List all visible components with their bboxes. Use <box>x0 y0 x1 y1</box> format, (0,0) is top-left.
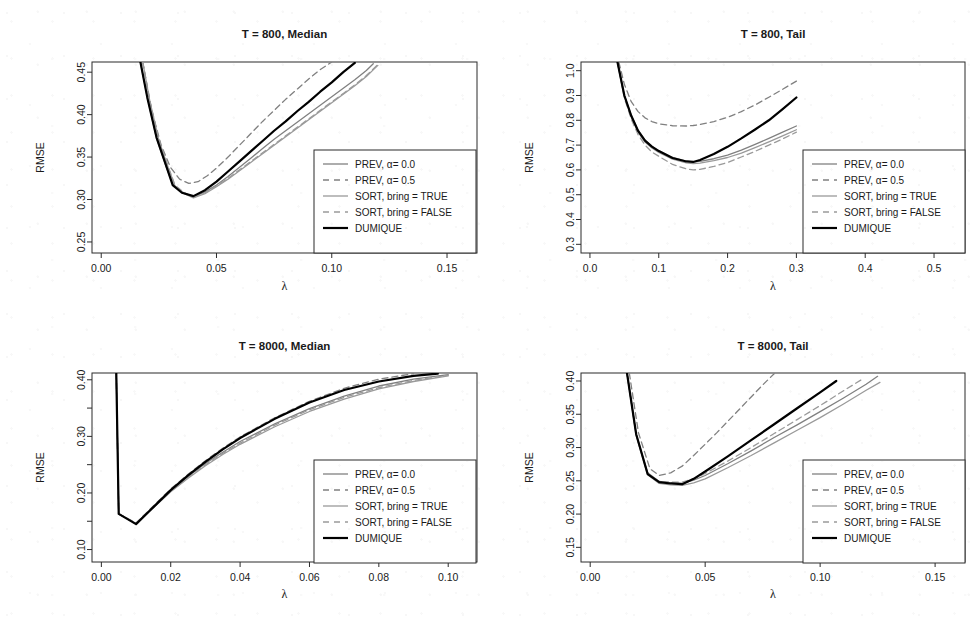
legend-label: PREV, α= 0.0 <box>355 469 416 480</box>
y-tick-label: 0.20 <box>564 504 576 525</box>
y-tick-label: 0.8 <box>564 113 576 128</box>
x-tick-label: 0.02 <box>161 571 182 583</box>
legend-label: PREV, α= 0.0 <box>844 469 905 480</box>
x-tick-label: 0.04 <box>230 571 251 583</box>
legend-label: PREV, α= 0.5 <box>355 485 416 496</box>
y-tick-label: 0.40 <box>564 371 576 392</box>
y-tick-label: 0.40 <box>75 104 87 125</box>
series-line <box>619 62 797 126</box>
legend-label: DUMIQUE <box>844 533 892 544</box>
legend-label: DUMIQUE <box>844 223 892 234</box>
legend-label: PREV, α= 0.0 <box>355 159 416 170</box>
legend-label: SORT, bring = FALSE <box>355 517 452 528</box>
x-tick-label: 0.00 <box>91 262 112 274</box>
legend-label: SORT, bring = FALSE <box>844 207 941 218</box>
legend-label: SORT, bring = TRUE <box>355 501 448 512</box>
figure-panel-grid: T = 800, Median0.250.300.350.400.450.000… <box>0 0 975 641</box>
legend: PREV, α= 0.0PREV, α= 0.5SORT, bring = TR… <box>314 460 476 563</box>
legend-label: PREV, α= 0.5 <box>355 175 416 186</box>
y-tick-label: 0.30 <box>75 189 87 210</box>
legend-label: SORT, bring = FALSE <box>355 207 452 218</box>
y-tick-label: 0.3 <box>564 237 576 252</box>
y-axis-label: RMSE <box>34 142 46 172</box>
y-axis-label: RMSE <box>523 452 535 482</box>
x-axis-label: λ <box>282 279 288 293</box>
panel-title: T = 8000, Median <box>239 340 331 352</box>
panel-bottom-right: T = 8000, Tail0.150.200.250.300.350.400.… <box>487 320 975 641</box>
x-tick-label: 0.4 <box>858 262 873 274</box>
y-tick-label: 0.20 <box>75 483 87 504</box>
x-tick-label: 0.15 <box>437 262 458 274</box>
legend: PREV, α= 0.0PREV, α= 0.5SORT, bring = TR… <box>803 150 965 253</box>
y-tick-label: 0.7 <box>564 138 576 153</box>
y-tick-label: 0.15 <box>564 537 576 558</box>
series-line <box>629 373 774 475</box>
y-tick-label: 1.0 <box>564 63 576 78</box>
x-tick-label: 0.2 <box>720 262 735 274</box>
y-tick-label: 0.35 <box>75 147 87 168</box>
x-tick-label: 0.0 <box>583 262 598 274</box>
x-tick-label: 0.10 <box>438 571 459 583</box>
x-tick-label: 0.5 <box>927 262 942 274</box>
y-tick-label: 0.4 <box>564 212 576 227</box>
series-line <box>617 62 796 170</box>
y-tick-label: 0.10 <box>75 539 87 560</box>
y-tick-label: 0.30 <box>75 426 87 447</box>
panel-title: T = 800, Tail <box>741 28 806 40</box>
x-tick-label: 0.3 <box>789 262 804 274</box>
y-tick-label: 0.9 <box>564 88 576 103</box>
series-line <box>617 62 796 164</box>
x-tick-label: 0.1 <box>651 262 666 274</box>
x-tick-label: 0.06 <box>299 571 320 583</box>
x-axis-label: λ <box>770 587 776 601</box>
x-tick-label: 0.00 <box>580 571 601 583</box>
x-tick-label: 0.08 <box>369 571 390 583</box>
legend-label: SORT, bring = TRUE <box>355 191 448 202</box>
y-axis-label: RMSE <box>523 142 535 172</box>
y-tick-label: 0.30 <box>564 437 576 458</box>
x-axis-label: λ <box>770 279 776 293</box>
legend: PREV, α= 0.0PREV, α= 0.5SORT, bring = TR… <box>803 460 965 563</box>
legend-label: PREV, α= 0.0 <box>844 159 905 170</box>
y-tick-label: 0.40 <box>75 369 87 390</box>
panel-title: T = 800, Median <box>242 28 327 40</box>
legend: PREV, α= 0.0PREV, α= 0.5SORT, bring = TR… <box>314 150 476 253</box>
series-layer <box>617 62 796 170</box>
series-line <box>617 62 796 162</box>
x-tick-label: 0.00 <box>91 571 112 583</box>
y-tick-label: 0.45 <box>75 62 87 83</box>
y-tick-label: 0.25 <box>564 470 576 491</box>
x-tick-label: 0.10 <box>322 262 343 274</box>
panel-top-left: T = 800, Median0.250.300.350.400.450.000… <box>0 0 487 320</box>
x-tick-label: 0.05 <box>206 262 227 274</box>
y-tick-label: 0.5 <box>564 187 576 202</box>
legend-label: SORT, bring = FALSE <box>844 517 941 528</box>
series-line <box>617 62 796 162</box>
panel-top-right: T = 800, Tail0.30.40.50.60.70.80.91.00.0… <box>487 0 975 320</box>
y-tick-label: 0.6 <box>564 162 576 177</box>
legend-label: PREV, α= 0.5 <box>844 175 905 186</box>
legend-label: SORT, bring = TRUE <box>844 501 937 512</box>
y-axis-label: RMSE <box>34 452 46 482</box>
panel-title: T = 8000, Tail <box>737 340 808 352</box>
x-tick-label: 0.10 <box>810 571 831 583</box>
legend-label: DUMIQUE <box>355 223 403 234</box>
legend-label: DUMIQUE <box>355 533 403 544</box>
panel-bottom-left: T = 8000, Median0.100.200.300.400.000.02… <box>0 320 487 641</box>
y-tick-label: 0.35 <box>564 404 576 425</box>
legend-label: PREV, α= 0.5 <box>844 485 905 496</box>
x-tick-label: 0.15 <box>925 571 946 583</box>
legend-label: SORT, bring = TRUE <box>844 191 937 202</box>
x-axis-label: λ <box>282 587 288 601</box>
x-tick-label: 0.05 <box>695 571 716 583</box>
y-tick-label: 0.25 <box>75 232 87 253</box>
